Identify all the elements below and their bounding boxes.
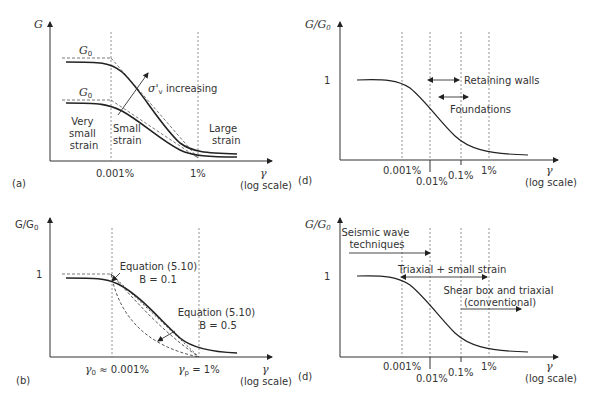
x-tick-0.001pct: 0.001% bbox=[383, 165, 421, 176]
x-tick-1pct: 1% bbox=[481, 361, 497, 372]
panel-label: (d) bbox=[298, 175, 312, 186]
panel-a: G G0 G0 σ'v increasing Very small strain… bbox=[12, 18, 292, 191]
g0-label-lower: G0 bbox=[79, 86, 92, 100]
y-tick-1: 1 bbox=[36, 269, 42, 280]
panel-d-top: G/G0 1 Retaining walls Foundations 0.001… bbox=[298, 18, 577, 188]
x-axis-symbol: γ bbox=[262, 363, 269, 376]
x-axis-symbol: γ bbox=[546, 164, 553, 177]
increasing-arrow bbox=[118, 73, 148, 115]
y-axis-label: G/G0 bbox=[305, 18, 331, 32]
y-tick-1: 1 bbox=[324, 271, 330, 282]
eq-b01-label: Equation (5.10) B = 0.1 bbox=[120, 261, 201, 285]
seismic-label: Seismic wave techniques bbox=[341, 227, 412, 250]
x-axis-note: (log scale) bbox=[525, 373, 577, 384]
region-very-small-strain: Very small strain bbox=[69, 116, 99, 151]
panel-label: (a) bbox=[12, 178, 26, 189]
x-tick-0.001pct: 0.001% bbox=[383, 361, 421, 372]
x-axis-note: (log scale) bbox=[240, 376, 292, 387]
x-tick-gamma0: γ0 ≈ 0.001% bbox=[85, 363, 149, 377]
retaining-walls-label: Retaining walls bbox=[464, 75, 540, 86]
x-axis-note: (log scale) bbox=[525, 177, 577, 188]
x-axis-symbol: γ bbox=[260, 167, 267, 180]
region-small-strain: Small strain bbox=[113, 123, 144, 146]
y-axis-label: G/G0 bbox=[15, 219, 38, 232]
x-tick-gammap: γp = 1% bbox=[178, 363, 220, 377]
y-tick-1: 1 bbox=[324, 75, 330, 86]
shear-box-label: Shear box and triaxial (conventional) bbox=[443, 285, 556, 308]
foundations-label: Foundations bbox=[450, 104, 511, 115]
y-axis-label: G bbox=[34, 18, 43, 31]
panel-label: (d) bbox=[298, 371, 312, 382]
y-axis-label: G/G0 bbox=[305, 218, 331, 232]
x-tick-0.1pct: 0.1% bbox=[448, 170, 473, 181]
triaxial-small-strain-label: Triaxial + small strain bbox=[397, 264, 506, 275]
eq-b05-label: Equation (5.10) B = 0.5 bbox=[178, 307, 259, 331]
panel-d-bottom: G/G0 1 Seismic wave techniques Triaxial … bbox=[298, 218, 577, 384]
g0-label-upper: G0 bbox=[79, 44, 92, 58]
x-tick-0.001pct: 0.001% bbox=[96, 168, 134, 179]
region-large-strain: Large strain bbox=[209, 123, 241, 146]
x-axis-symbol: γ bbox=[546, 360, 553, 373]
x-tick-1pct: 1% bbox=[481, 165, 497, 176]
x-tick-0.01pct: 0.01% bbox=[416, 176, 448, 187]
x-tick-1pct: 1% bbox=[190, 168, 206, 179]
sigma-increasing-label: σ'v increasing bbox=[148, 82, 217, 96]
x-axis-note: (log scale) bbox=[240, 180, 292, 191]
panel-label: (b) bbox=[16, 375, 30, 386]
x-tick-0.1pct: 0.1% bbox=[448, 367, 473, 378]
x-tick-0.01pct: 0.01% bbox=[416, 373, 448, 384]
panel-b: G/G0 1 Equation (5.10) B = 0.1 Equation … bbox=[15, 218, 292, 387]
modulus-curve bbox=[357, 80, 528, 155]
figure-canvas: G G0 G0 σ'v increasing Very small strain… bbox=[0, 0, 591, 399]
